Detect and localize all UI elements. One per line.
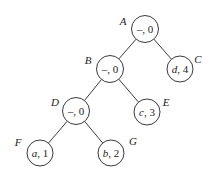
tree-node-a: –, 0A: [119, 15, 159, 43]
node-value: d, 4: [172, 63, 189, 75]
node-value: b, 2: [103, 147, 120, 159]
node-weight: 4: [183, 63, 189, 75]
node-label-a: A: [119, 15, 127, 27]
node-weight: 0: [148, 23, 154, 35]
tree-node-g: b, 2G: [98, 135, 137, 166]
node-label-g: G: [129, 135, 137, 147]
nodes-layer: –, 0A–, 0Bd, 4C–, 0Dc, 3Ea, 1Fb, 2G: [14, 15, 203, 166]
edge-b-d: [84, 79, 101, 100]
node-label-b: B: [85, 54, 92, 66]
tree-node-f: a, 1F: [14, 136, 53, 166]
node-value: –, 0: [136, 23, 154, 35]
node-weight: 3: [149, 106, 155, 118]
edges-layer: [48, 39, 171, 143]
tree-node-b: –, 0B: [85, 54, 124, 83]
node-label-d: D: [50, 96, 59, 108]
edge-a-c: [154, 39, 172, 59]
edge-d-f: [48, 121, 67, 143]
node-weight: 0: [79, 105, 85, 117]
node-value: c, 3: [139, 106, 155, 118]
tree-node-c: d, 4C: [167, 53, 202, 82]
binary-tree-diagram: –, 0A–, 0Bd, 4C–, 0Dc, 3Ea, 1Fb, 2G: [0, 0, 215, 176]
node-label-f: F: [14, 136, 22, 148]
edge-b-e: [119, 79, 139, 102]
node-value: –, 0: [101, 63, 119, 75]
edge-d-g: [85, 121, 103, 143]
node-value: a, 1: [32, 147, 49, 159]
node-weight: 1: [43, 147, 49, 159]
node-label-c: C: [194, 53, 202, 65]
node-weight: 2: [114, 147, 120, 159]
node-label-e: E: [162, 96, 170, 108]
tree-node-d: –, 0D: [50, 96, 89, 125]
node-weight: 0: [113, 63, 119, 75]
edge-a-b: [119, 39, 136, 59]
tree-node-e: c, 3E: [134, 96, 170, 125]
node-value: –, 0: [67, 105, 85, 117]
